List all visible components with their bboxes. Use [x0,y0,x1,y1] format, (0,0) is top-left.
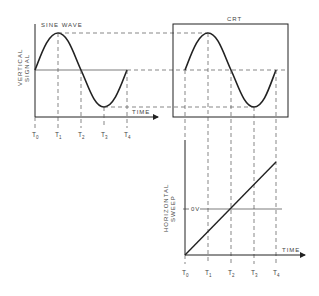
vertical-signal-label-2: SIGNAL [24,54,30,82]
sweep-tick-t3: T3 [251,269,258,278]
sine-tick-dashes [35,33,127,128]
crt-title: CRT [227,16,242,22]
sine-crt-diagram: SINE WAVE VERTICAL SIGNAL TIME T0 T1 T2 … [0,0,319,296]
zero-volt-label: 0V [191,206,200,212]
sweep-tick-t2: T2 [228,269,235,278]
sine-tick-t3: T3 [101,131,108,140]
sine-tick-t1: T1 [55,131,62,140]
horizontal-sweep-panel: 0V HORIZONTAL SWEEP TIME T0 T1 T2 T3 T4 [163,140,305,278]
sine-wave-panel: SINE WAVE VERTICAL SIGNAL TIME T0 T1 T2 … [17,22,158,140]
crt-panel: CRT [173,16,288,117]
sine-tick-t4: T4 [124,131,131,140]
sine-tick-t0: T0 [32,131,39,140]
sweep-tick-t4: T4 [273,269,280,278]
vertical-signal-label: VERTICAL [17,49,23,86]
sweep-tick-t1: T1 [205,269,212,278]
sweep-time-label: TIME [282,247,300,253]
sine-time-label: TIME [132,109,150,115]
sine-wave-title: SINE WAVE [41,22,83,28]
horizontal-sweep-label: HORIZONTAL [163,184,169,232]
sine-tick-t2: T2 [78,131,85,140]
horizontal-sweep-label-2: SWEEP [170,195,176,222]
sweep-tick-t0: T0 [182,269,189,278]
